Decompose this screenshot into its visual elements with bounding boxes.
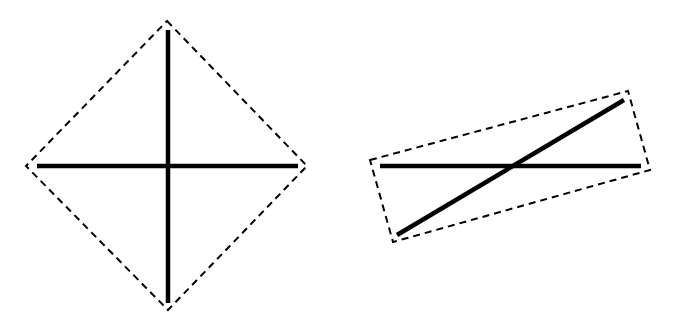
left-figure: [26, 21, 307, 310]
right-figure: [370, 91, 650, 242]
diagram-canvas: [0, 0, 673, 323]
